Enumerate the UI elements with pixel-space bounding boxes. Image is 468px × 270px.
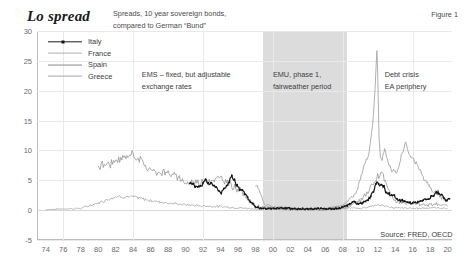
source-note: Source: FRED, OECD (380, 230, 452, 239)
page-title: Lo spread (27, 8, 90, 25)
legend-label-italy: Italy (88, 37, 102, 46)
legend-swatch-spain (48, 59, 82, 71)
x-axis-tick-label: 78 (77, 245, 85, 254)
y-axis-tick-label: 25 (24, 56, 32, 65)
subtitle-line-2: compared to German “Bund” (113, 20, 343, 32)
annotation-ems-line-2: exchange rates (142, 81, 231, 93)
y-axis-tick-label: 15 (24, 116, 32, 125)
legend-label-greece: Greece (88, 72, 112, 81)
annotation-crisis-line-2: EA periphery (385, 81, 427, 93)
x-axis-tick-label: 10 (356, 245, 364, 254)
x-axis-tick-label: 06 (321, 245, 329, 254)
chart-subtitle: Spreads, 10 year sovereign bonds, compar… (113, 8, 343, 31)
series-line-spain (98, 151, 447, 211)
x-axis-tick-label: 20 (443, 245, 451, 254)
x-axis-tick-label: 74 (42, 245, 50, 254)
legend-item-spain: Spain (48, 59, 112, 71)
annotation-emu-line-1: EMU, phase 1, (273, 69, 331, 81)
x-axis-tick-label: 98 (251, 245, 259, 254)
x-axis-tick-label: 12 (374, 245, 382, 254)
x-axis-tick-label: 92 (199, 245, 207, 254)
legend-swatch-greece (48, 71, 82, 83)
legend-swatch-france (48, 48, 82, 60)
annotation-ems: EMS – fixed, but adjustable exchange rat… (142, 69, 231, 92)
y-axis-tick-label: 5 (28, 176, 32, 185)
y-axis-tick-label: -5 (25, 236, 32, 245)
x-axis-tick-label: 80 (94, 245, 102, 254)
gridline-horizontal (37, 240, 452, 241)
x-axis-tick-label: 86 (146, 245, 154, 254)
annotation-crisis-line-1: Debt crisis (385, 69, 427, 81)
annotation-debt-crisis: Debt crisis EA periphery (385, 69, 427, 92)
y-axis-tick-label: 10 (24, 146, 32, 155)
x-axis-tick-label: 16 (409, 245, 417, 254)
x-axis-tick-label: 14 (391, 245, 399, 254)
figure-number: Figure 1 (431, 10, 458, 19)
x-axis-tick-label: 00 (269, 245, 277, 254)
series-markers-italy (189, 175, 450, 211)
legend-swatch-italy (48, 36, 82, 48)
legend-label-france: France (88, 49, 111, 58)
x-axis-tick-label: 90 (181, 245, 189, 254)
annotation-emu-line-2: fairweather period (273, 81, 331, 93)
y-axis-tick-label: 30 (24, 27, 32, 36)
y-axis-tick-label: 0 (28, 206, 32, 215)
x-axis-tick-label: 18 (426, 245, 434, 254)
chart-legend: Italy France Spain Greece (48, 36, 112, 82)
x-axis-tick-label: 82 (111, 245, 119, 254)
x-axis-tick-label: 04 (304, 245, 312, 254)
series-line-france (46, 196, 448, 211)
x-axis-tick-label: 96 (234, 245, 242, 254)
figure-container: Lo spread Spreads, 10 year sovereign bon… (0, 0, 468, 270)
subtitle-line-1: Spreads, 10 year sovereign bonds, (113, 8, 343, 20)
x-axis-tick-label: 84 (129, 245, 137, 254)
x-axis-tick-label: 02 (286, 245, 294, 254)
x-axis-tick-label: 88 (164, 245, 172, 254)
annotation-emu: EMU, phase 1, fairweather period (273, 69, 331, 92)
series-line-italy (190, 176, 450, 210)
y-axis-tick-label: 20 (24, 86, 32, 95)
legend-label-spain: Spain (88, 60, 107, 69)
legend-item-greece: Greece (48, 71, 112, 83)
x-axis-tick-label: 08 (339, 245, 347, 254)
legend-item-france: France (48, 48, 112, 60)
annotation-ems-line-1: EMS – fixed, but adjustable (142, 69, 231, 81)
legend-item-italy: Italy (48, 36, 112, 48)
x-axis-tick-label: 76 (59, 245, 67, 254)
x-axis-tick-label: 94 (216, 245, 224, 254)
